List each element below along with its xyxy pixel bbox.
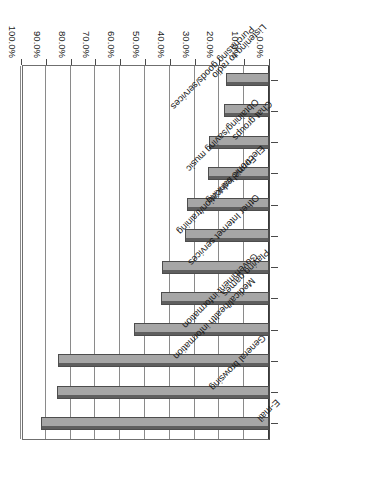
category-axis-tick xyxy=(271,205,278,206)
value-axis-tick xyxy=(195,59,196,65)
rotated-figure-wrapper: 0.0%10.0%20.0%30.0%40.0%50.0%60.0%70.0%8… xyxy=(0,0,388,504)
value-axis-label: 80.0% xyxy=(57,31,68,58)
category-axis-tick xyxy=(271,361,278,362)
value-axis-tick xyxy=(95,59,96,65)
bar xyxy=(226,73,269,86)
gridline xyxy=(20,66,21,439)
bar-chart: 0.0%10.0%20.0%30.0%40.0%50.0%60.0%70.0%8… xyxy=(0,0,388,504)
value-axis-tick xyxy=(170,59,171,65)
value-axis-label: 70.0% xyxy=(81,31,92,58)
value-axis-label: 20.0% xyxy=(205,31,216,58)
bar-row xyxy=(21,104,269,117)
value-axis-label: 50.0% xyxy=(131,31,142,58)
value-axis-tick xyxy=(244,59,245,65)
value-axis-tick xyxy=(71,59,72,65)
category-axis-tick xyxy=(271,173,278,174)
value-axis-tick xyxy=(269,59,270,65)
category-axis-tick xyxy=(271,142,278,143)
bar-row xyxy=(21,73,269,86)
category-axis-tick xyxy=(271,80,278,81)
value-axis-tick xyxy=(145,59,146,65)
value-axis-tick xyxy=(46,59,47,65)
bar-row xyxy=(21,323,269,336)
category-axis-tick xyxy=(271,330,278,331)
value-axis-label: 30.0% xyxy=(181,31,192,58)
value-axis-tick xyxy=(120,59,121,65)
category-axis-tick xyxy=(271,267,278,268)
category-axis-tick xyxy=(271,111,278,112)
value-axis-label: 100.0% xyxy=(7,26,18,58)
value-axis-label: 40.0% xyxy=(156,31,167,58)
category-axis-tick xyxy=(271,423,278,424)
value-axis-tick xyxy=(21,59,22,65)
category-axis-tick xyxy=(271,298,278,299)
value-axis-label: 90.0% xyxy=(32,31,43,58)
bar-row xyxy=(21,229,269,242)
bar-row xyxy=(21,417,269,430)
bar-row xyxy=(21,386,269,399)
category-axis-tick xyxy=(271,236,278,237)
bar xyxy=(57,386,269,399)
category-axis-tick xyxy=(271,392,278,393)
bar xyxy=(41,417,269,430)
value-axis-label: 60.0% xyxy=(106,31,117,58)
bar-row xyxy=(21,198,269,211)
